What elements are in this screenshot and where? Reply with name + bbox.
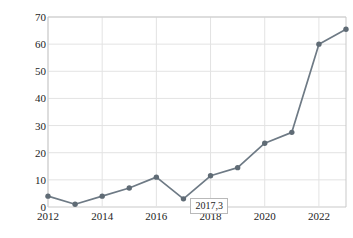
data-point-marker[interactable]	[181, 196, 186, 201]
data-point-marker[interactable]	[45, 193, 50, 198]
data-point-marker[interactable]	[154, 174, 159, 179]
data-point-marker[interactable]	[289, 130, 294, 135]
line-chart: 专利数量/项 010203040506070 20122014201620182…	[0, 0, 353, 238]
data-point-marker[interactable]	[208, 173, 213, 178]
gridlines	[48, 17, 346, 207]
data-point-marker[interactable]	[235, 165, 240, 170]
series-line	[48, 29, 346, 204]
data-point-marker[interactable]	[343, 27, 348, 32]
data-point-annotation: 2017,3	[190, 198, 228, 215]
axis-lines	[48, 17, 346, 207]
data-point-marker[interactable]	[72, 202, 77, 207]
data-point-marker[interactable]	[127, 185, 132, 190]
data-point-marker[interactable]	[99, 193, 104, 198]
data-point-marker[interactable]	[262, 141, 267, 146]
data-point-marker[interactable]	[316, 41, 321, 46]
plot-area	[0, 0, 353, 238]
